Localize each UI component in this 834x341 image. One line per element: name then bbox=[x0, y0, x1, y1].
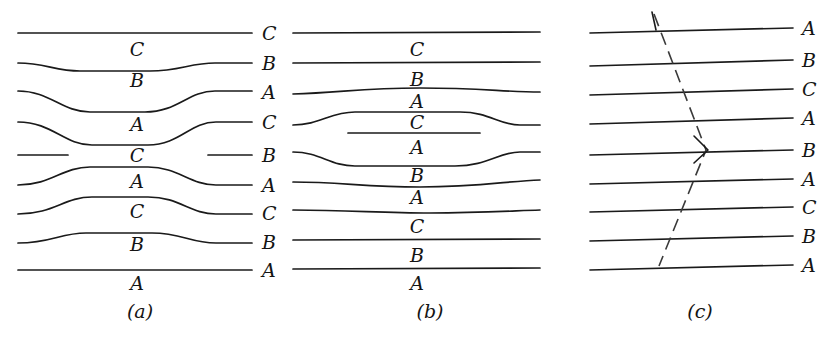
panel-a-unit-label: A bbox=[130, 113, 144, 135]
panel-c-bed-6 bbox=[590, 179, 793, 184]
panel-a-edge-label: C bbox=[262, 22, 277, 44]
panel-b-unit-label: A bbox=[410, 186, 424, 208]
panel-a-caption: (a) bbox=[127, 300, 153, 322]
panel-c-caption: (c) bbox=[687, 300, 712, 322]
panel-c-fault bbox=[652, 12, 708, 266]
panel-b-unit-label: C bbox=[410, 111, 425, 133]
panel-a-unit-label: B bbox=[130, 233, 144, 255]
stratigraphic-figure: C B A C A C B A C B A C B A C B A C B A … bbox=[0, 0, 834, 341]
panel-b-unit-label: B bbox=[410, 164, 424, 186]
panel-b-unit-label: B bbox=[410, 244, 424, 266]
panel-b-caption: (b) bbox=[417, 300, 444, 322]
panel-c-beds bbox=[590, 28, 793, 270]
panel-b-unit-label: C bbox=[410, 38, 425, 60]
panel-c-bed-4 bbox=[590, 118, 793, 124]
panel-c-bed-5 bbox=[590, 150, 793, 155]
panel-c-edge-label: A bbox=[802, 168, 816, 190]
panel-c-edge-label: C bbox=[802, 196, 817, 218]
panel-a-edge-label: B bbox=[262, 231, 276, 253]
panel-c-edge-label: C bbox=[802, 78, 817, 100]
panel-c-edge-label: B bbox=[802, 139, 816, 161]
panel-b-bed-1 bbox=[293, 32, 540, 33]
panel-a-unit-label: C bbox=[130, 38, 145, 60]
panel-a-edge-label: B bbox=[262, 144, 276, 166]
panel-a-edge-label: B bbox=[262, 52, 276, 74]
panel-b-bed-8 bbox=[293, 210, 540, 213]
panel-b-unit-label: B bbox=[410, 68, 424, 90]
panel-b-unit-label: C bbox=[410, 215, 425, 237]
panel-a-edge-label: C bbox=[262, 111, 277, 133]
panel-b-bed-10 bbox=[293, 268, 540, 269]
panel-a-unit-label: C bbox=[130, 200, 145, 222]
panel-c-bed-8 bbox=[590, 236, 793, 241]
panel-a-unit-label: B bbox=[130, 69, 144, 91]
panel-c-edge-label: B bbox=[802, 225, 816, 247]
panel-c-edge-label: A bbox=[802, 107, 816, 129]
panel-c-edge-label: B bbox=[802, 49, 816, 71]
panel-a-unit-label: A bbox=[130, 272, 144, 294]
panel-b-bed-2 bbox=[293, 62, 540, 63]
panel-a-edge-label: A bbox=[262, 259, 276, 281]
panel-a-unit-label: A bbox=[130, 170, 144, 192]
panel-c-bed-9 bbox=[590, 265, 793, 270]
panel-a-edge-label: A bbox=[262, 174, 276, 196]
panel-b-bed-9 bbox=[293, 239, 540, 240]
panel-c-bed-2 bbox=[590, 60, 793, 66]
panel-c-edge-label: A bbox=[802, 17, 816, 39]
panel-a-edge-label: C bbox=[262, 202, 277, 224]
panel-a-bed-3 bbox=[18, 91, 252, 112]
panel-c-bed-1 bbox=[590, 28, 793, 33]
panel-a-edge-label: A bbox=[262, 81, 276, 103]
panel-c-bed-3 bbox=[590, 89, 793, 95]
panel-c-bed-7 bbox=[590, 207, 793, 212]
panel-b-unit-label: A bbox=[410, 90, 424, 112]
panel-a-unit-label: C bbox=[130, 144, 145, 166]
panel-b-unit-label: A bbox=[410, 272, 424, 294]
panel-c-edge-label: A bbox=[802, 254, 816, 276]
panel-b-unit-label: A bbox=[410, 136, 424, 158]
